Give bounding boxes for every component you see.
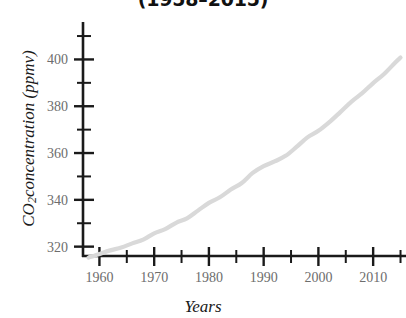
- x-tick-label: 1980: [195, 270, 223, 285]
- x-tick-label: 2000: [304, 270, 332, 285]
- x-tick-label: 1970: [140, 270, 168, 285]
- co2-chart-figure: (1958–2015) CO2concentration (ppmv) Year…: [0, 0, 406, 318]
- y-tick-label: 360: [47, 146, 68, 161]
- co2-trend-line: [88, 58, 400, 258]
- x-tick-label: 1990: [250, 270, 278, 285]
- y-tick-label: 400: [47, 52, 68, 67]
- x-axis-tick-labels: 196019701980199020002010: [85, 270, 387, 285]
- y-tick-label: 340: [47, 193, 68, 208]
- x-tick-label: 1960: [85, 270, 113, 285]
- plot-area: 320340360380400 196019701980199020002010: [0, 0, 406, 318]
- y-axis-tick-labels: 320340360380400: [47, 52, 68, 254]
- y-tick-label: 380: [47, 99, 68, 114]
- y-tick-label: 320: [47, 240, 68, 255]
- x-tick-label: 2010: [359, 270, 387, 285]
